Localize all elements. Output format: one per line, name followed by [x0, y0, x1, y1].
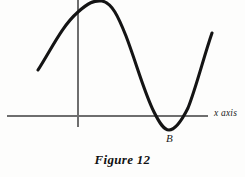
figure-12-container: x axis B Figure 12	[0, 0, 245, 177]
figure-graph-svg	[0, 0, 245, 177]
point-b-label: B	[166, 132, 173, 144]
x-axis-label: x axis	[214, 108, 237, 118]
figure-caption: Figure 12	[0, 152, 245, 168]
polynomial-curve	[38, 1, 212, 130]
